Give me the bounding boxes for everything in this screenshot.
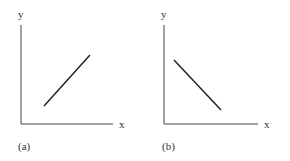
panel-a: y x (a) (18, 8, 125, 153)
y-axis-label-b: y (161, 8, 167, 20)
panel-b: y x (b) (161, 8, 270, 153)
caption-b: (b) (162, 140, 175, 153)
y-axis-label-a: y (18, 8, 24, 20)
x-axis-label-b: x (264, 118, 270, 130)
positive-line (44, 55, 90, 106)
x-axis-label-a: x (119, 118, 125, 130)
negative-line (174, 60, 221, 110)
diagram-canvas: y x (a) y x (b) (0, 0, 290, 161)
caption-a: (a) (18, 140, 31, 153)
